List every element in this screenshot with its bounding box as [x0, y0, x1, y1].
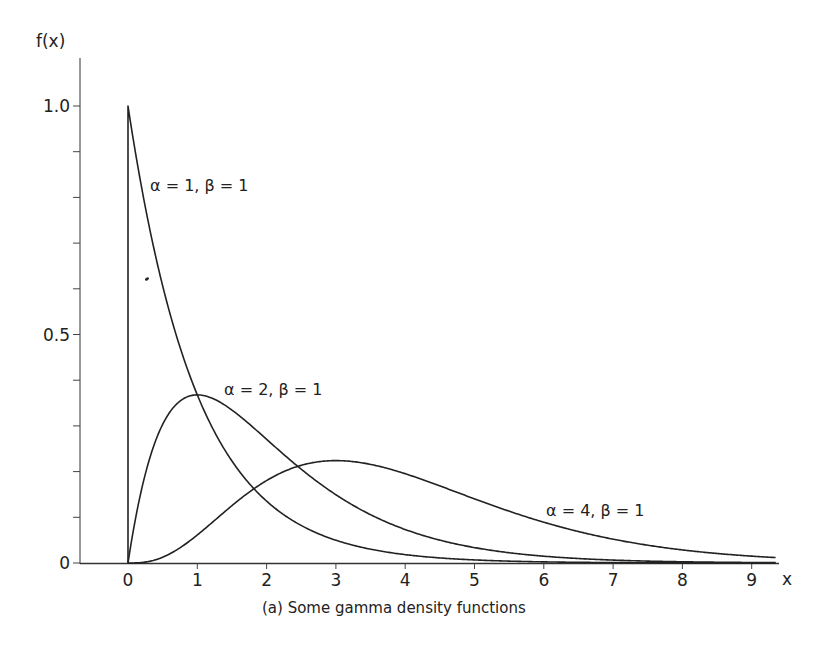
x-tick-label: 6 [538, 570, 549, 590]
y-tick-label: 0 [59, 553, 70, 573]
y-axis-ticks: 00.51.0 [43, 96, 80, 573]
x-tick-label: 0 [123, 570, 134, 590]
curve-label-alpha4: α = 4, β = 1 [546, 501, 644, 520]
x-tick-label: 7 [608, 570, 619, 590]
curve-alpha-4 [128, 461, 776, 563]
x-tick-label: 5 [469, 570, 480, 590]
x-tick-label: 2 [261, 570, 272, 590]
curve-label-alpha1: α = 1, β = 1 [150, 176, 248, 195]
x-tick-label: 9 [746, 570, 757, 590]
x-tick-label: 1 [192, 570, 203, 590]
figure-caption: (a) Some gamma density functions [262, 599, 526, 617]
y-tick-label: 0.5 [43, 325, 70, 345]
curve-label-alpha2: α = 2, β = 1 [224, 380, 322, 399]
x-tick-label: 8 [677, 570, 688, 590]
x-axis-label: x [782, 569, 792, 589]
density-curves [128, 106, 776, 563]
curve-alpha-2 [128, 395, 776, 563]
curve-alpha-1 [128, 106, 776, 563]
gamma-density-chart: 00.51.0 0123456789 f(x) x α = 1, β = 1 α… [0, 0, 832, 668]
scan-speck [144, 277, 149, 281]
y-tick-label: 1.0 [43, 96, 70, 116]
x-tick-label: 4 [400, 570, 411, 590]
x-tick-label: 3 [330, 570, 341, 590]
x-axis-ticks: 0123456789 [123, 563, 758, 590]
y-axis-label: f(x) [36, 31, 65, 51]
